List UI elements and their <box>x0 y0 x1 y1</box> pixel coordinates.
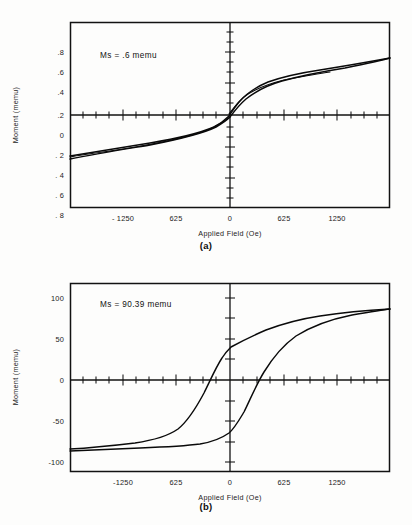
svg-text:-50: -50 <box>53 417 64 426</box>
x-ticklabels-b: -1250 625 0 625 1250 <box>113 478 346 487</box>
svg-text:.4: .4 <box>57 88 64 97</box>
svg-text:.8: .8 <box>57 48 64 57</box>
svg-text:0: 0 <box>228 478 232 487</box>
svg-text:625: 625 <box>278 478 291 487</box>
svg-text:0: 0 <box>60 131 64 140</box>
svg-text:. 2: . 2 <box>55 151 64 160</box>
svg-text:625: 625 <box>170 478 183 487</box>
chart-panel-b: 100 50 0 -50 -100 -1250 625 0 625 1250 A… <box>0 262 412 525</box>
svg-text:625: 625 <box>170 214 183 223</box>
hysteresis-plot-b: 100 50 0 -50 -100 -1250 625 0 625 1250 A… <box>0 262 412 525</box>
hysteresis-plot-a: .8 .6 .4 .2 0 . 2 . 4 . 6 . 8 - 1250 625… <box>0 0 412 262</box>
svg-text:. 6: . 6 <box>55 191 64 200</box>
svg-text:. 4: . 4 <box>55 171 64 180</box>
x-axis-label-a: Applied Field (Oe) <box>198 229 261 238</box>
svg-text:. 8: . 8 <box>55 211 64 220</box>
y-ticklabels-b: 100 50 0 -50 -100 <box>48 294 64 467</box>
panel-caption-b: (b) <box>0 501 412 512</box>
ms-annotation-a: Ms = .6 memu <box>100 51 157 60</box>
chart-panel-a: .8 .6 .4 .2 0 . 2 . 4 . 6 . 8 - 1250 625… <box>0 0 412 262</box>
svg-text:.2: .2 <box>57 111 64 120</box>
svg-text:-100: -100 <box>48 458 64 467</box>
svg-text:625: 625 <box>278 214 291 223</box>
svg-text:0: 0 <box>228 214 232 223</box>
y-axis-label-b: Moment (memu) <box>11 349 20 406</box>
svg-text:100: 100 <box>51 294 64 303</box>
svg-text:1250: 1250 <box>328 478 345 487</box>
figure-page: .8 .6 .4 .2 0 . 2 . 4 . 6 . 8 - 1250 625… <box>0 0 412 525</box>
x-ticklabels-a: - 1250 625 0 625 1250 <box>112 214 346 223</box>
curve-inner-loop-lower-a <box>70 117 230 157</box>
panel-caption-a: (a) <box>0 240 412 251</box>
svg-text:1250: 1250 <box>328 214 345 223</box>
y-ticklabels-a: .8 .6 .4 .2 0 . 2 . 4 . 6 . 8 <box>55 48 64 220</box>
svg-text:- 1250: - 1250 <box>112 214 134 223</box>
y-axis-label-a: Moment (memu) <box>11 87 20 144</box>
svg-text:.6: .6 <box>57 68 64 77</box>
svg-text:-1250: -1250 <box>113 478 133 487</box>
svg-text:0: 0 <box>60 376 64 385</box>
ms-annotation-b: Ms = 90.39 memu <box>100 300 172 309</box>
svg-text:50: 50 <box>55 335 64 344</box>
